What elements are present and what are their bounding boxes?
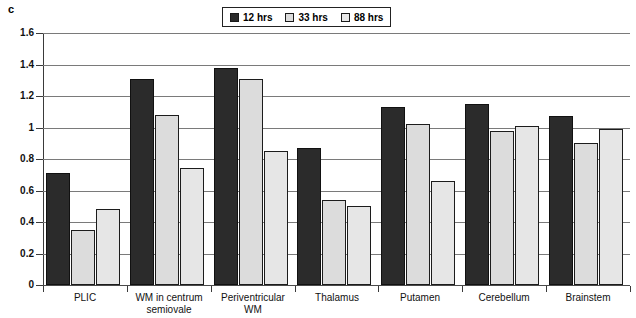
y-axis-tick-label-wrap: 1.6 [0,28,34,38]
bar-group [462,33,546,285]
bar-2 [239,79,263,285]
y-axis-tick-label-wrap: 0.2 [0,249,34,259]
bar-1 [130,79,154,285]
bar-3 [96,209,120,285]
y-axis-tick [36,191,43,192]
x-axis-category-label: Thalamus [295,292,379,304]
y-axis-tick-label: 0 [0,280,34,290]
bar-2 [490,131,514,285]
bar-3 [180,168,204,285]
x-axis-category-label: Cerebellum [462,292,546,304]
y-axis-tick-label: 0.8 [0,154,34,164]
y-axis-tick-label: 1 [0,123,34,133]
y-axis-tick [36,254,43,255]
bar-2 [574,143,598,285]
legend-swatch-icon-88hrs [341,13,350,22]
bar-2 [71,230,95,285]
bar-2 [155,115,179,285]
bar-group [211,33,295,285]
x-axis-category-label: Putamen [378,292,462,304]
y-axis-tick [36,285,43,286]
x-axis-category-label: PLIC [43,292,127,304]
y-axis-tick [36,33,43,34]
y-axis-tick-label-wrap: 0 [0,280,34,290]
axis-baseline [43,285,630,286]
legend-label-88hrs: 88 hrs [354,12,383,23]
y-axis-tick-label: 1.4 [0,60,34,70]
y-axis-tick-label-wrap: 1.2 [0,91,34,101]
bar-3 [347,206,371,285]
y-axis-tick-label: 1.2 [0,91,34,101]
y-axis-tick-label: 1.6 [0,28,34,38]
legend-swatch-icon-12hrs [230,13,239,22]
legend-label-33hrs: 33 hrs [298,12,327,23]
y-axis-tick [36,222,43,223]
bar-3 [264,151,288,285]
bar-group [295,33,379,285]
bar-group [378,33,462,285]
y-axis-tick-label-wrap: 0.4 [0,217,34,227]
bar-2 [322,200,346,285]
bar-1 [214,68,238,285]
x-axis-category-label: WM in centrum semiovale [127,292,211,316]
plot-area [43,33,630,285]
y-axis-tick [36,96,43,97]
bar-3 [431,181,455,285]
legend-item-12hrs: 12 hrs [230,12,272,23]
bar-2 [406,124,430,285]
x-axis-category-label: Periventricular WM [211,292,295,316]
y-axis-tick [36,65,43,66]
legend-item-33hrs: 33 hrs [285,12,327,23]
x-axis-tick [630,286,631,292]
bar-group [546,33,630,285]
legend-swatch-icon-33hrs [285,13,294,22]
legend-label-12hrs: 12 hrs [243,12,272,23]
bar-1 [297,148,321,285]
bar-group [43,33,127,285]
bar-1 [465,104,489,285]
y-axis-tick-label-wrap: 0.6 [0,186,34,196]
y-axis-tick-label-wrap: 1.4 [0,60,34,70]
y-axis-tick [36,128,43,129]
y-axis-tick-label-wrap: 0.8 [0,154,34,164]
y-axis-tick-label-wrap: 1 [0,123,34,133]
bar-chart-figure: c 12 hrs 33 hrs 88 hrs 00.20.40.60.811.2… [0,0,636,318]
bar-group [127,33,211,285]
x-axis-category-label: Brainstem [546,292,630,304]
y-axis-tick-label: 0.4 [0,217,34,227]
bar-1 [381,107,405,285]
chart-legend: 12 hrs 33 hrs 88 hrs [222,7,391,27]
panel-label: c [8,3,14,16]
legend-item-88hrs: 88 hrs [341,12,383,23]
y-axis-tick [36,159,43,160]
bar-3 [515,126,539,285]
bar-3 [599,129,623,285]
y-axis-tick-label: 0.2 [0,249,34,259]
bar-1 [46,173,70,285]
y-axis-tick-label: 0.6 [0,186,34,196]
bar-1 [549,116,573,285]
